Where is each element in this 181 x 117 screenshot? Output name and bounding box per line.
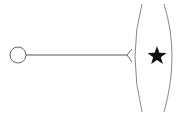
star-icon [147,46,166,64]
required-interface-socket [127,49,132,62]
left-parenthesis-arc [135,4,142,112]
provided-interface-circle [10,47,26,63]
diagram-canvas [0,0,181,117]
right-parenthesis-arc [164,4,172,112]
interface-diagram [0,0,181,117]
